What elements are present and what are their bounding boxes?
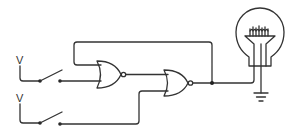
wire-switch-bottom-to-gate2 [60, 91, 168, 124]
circuit-diagram: V V [0, 0, 297, 136]
voltage-label-bottom: V [16, 92, 24, 104]
wire-output-to-bulb [193, 66, 254, 83]
switch-top-arm[interactable] [40, 70, 62, 81]
wire-top-source [20, 66, 40, 81]
bulb-glass [236, 8, 284, 66]
nor-gate-2 [164, 70, 193, 96]
output-junction [210, 81, 214, 85]
gate1-inversion-bubble [121, 72, 125, 76]
voltage-label-top: V [16, 54, 24, 66]
wire-bottom-source [20, 104, 40, 123]
bottom-switch-group: V [16, 91, 168, 126]
switch-bottom-arm[interactable] [40, 112, 62, 123]
wire-feedback-loop [74, 42, 212, 83]
top-switch-group: V [16, 54, 101, 83]
filament-icon [250, 26, 268, 36]
light-bulb [236, 8, 284, 93]
ground-icon [254, 93, 268, 101]
gate2-inversion-bubble [188, 81, 192, 85]
